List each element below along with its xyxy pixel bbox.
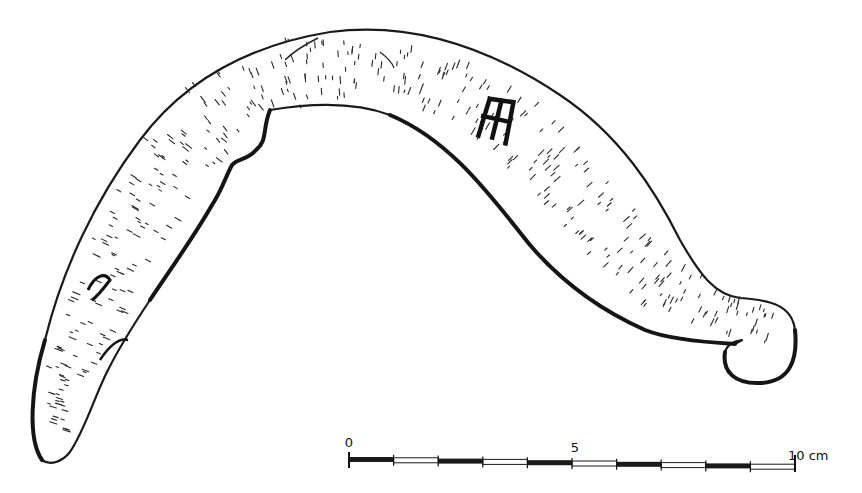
scale-segments <box>349 454 795 472</box>
hatch-stroke <box>305 74 306 82</box>
scale-bar: 0 5 10 cm <box>345 435 829 472</box>
hatch-stroke <box>356 82 357 88</box>
scale-segment <box>572 461 617 466</box>
scale-segment <box>438 459 483 464</box>
hatch-stroke <box>764 309 765 312</box>
scale-segment <box>483 459 528 464</box>
scale-segment <box>394 458 439 463</box>
scale-label-0: 0 <box>345 435 353 450</box>
hatch-stroke <box>764 340 765 342</box>
hatch-stroke <box>372 60 373 66</box>
hatch-stroke <box>339 89 340 95</box>
hatch-stroke <box>404 73 405 78</box>
scale-label-5: 5 <box>571 440 579 455</box>
scale-segment <box>750 464 795 469</box>
hatch-stroke <box>48 403 51 404</box>
scale-segment <box>527 460 572 465</box>
hatch-stroke <box>321 88 322 94</box>
hatch-stroke <box>384 77 385 82</box>
scale-segment <box>706 463 751 468</box>
hatch-stroke <box>375 53 376 59</box>
hatch-stroke <box>340 76 341 83</box>
hatch-stroke <box>394 86 395 92</box>
hatch-stroke <box>381 61 382 68</box>
scale-segment <box>661 463 706 468</box>
sickle-blade <box>33 30 796 463</box>
blade-outline <box>33 30 796 463</box>
hatch-stroke <box>398 86 399 93</box>
scale-segment <box>349 457 394 462</box>
sickle-drawing: 0 5 10 cm <box>0 0 862 493</box>
scale-label-10: 10 cm <box>788 448 829 463</box>
scale-segment <box>617 462 662 467</box>
hatch-stroke <box>358 54 359 59</box>
hatch-stroke <box>727 331 728 333</box>
hatch-stroke <box>378 69 379 75</box>
